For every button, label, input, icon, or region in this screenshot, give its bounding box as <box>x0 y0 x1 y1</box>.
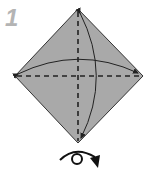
origami-diagram <box>0 0 156 177</box>
paper-diamond <box>15 9 143 143</box>
turn-over-icon <box>60 152 100 168</box>
